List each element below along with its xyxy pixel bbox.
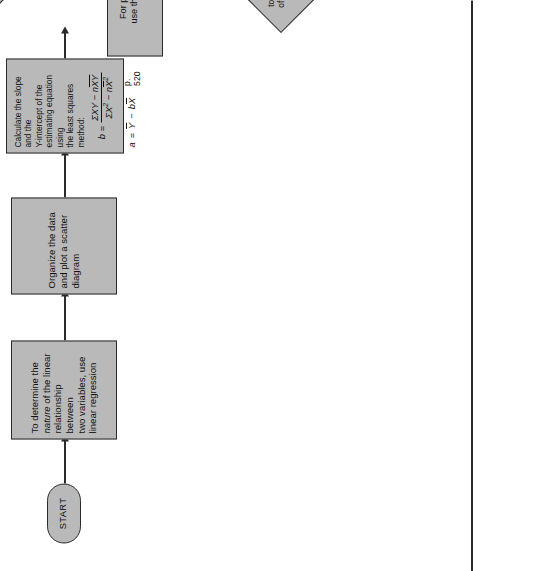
connector-start-to-determine [64,439,66,483]
node-decision-predict-values-label: Do you wantto predict valuesof the depen… [219,0,343,38]
node-determine-nature-label: To determine thenature of the linearrela… [29,341,99,438]
node-start-label: START [58,497,69,529]
formula-b: b=ΣXY − nXYΣX2 − nX2 [90,64,116,147]
connector-organize-to-calculate [64,153,66,197]
connector-determine-to-organize [64,294,66,340]
node-determine-nature[interactable]: To determine thenature of the linearrela… [11,340,117,439]
node-organize-data[interactable]: Organize the dataand plot a scatterdiagr… [11,197,117,294]
node-decision-predict-values[interactable]: Do you wantto predict valuesof the depen… [241,0,321,16]
node-calculate-slope-label: Calculate the slope and theY-intercept o… [7,59,143,152]
flowchart-canvas: Yes No STARTTo determine thenature of th… [0,0,546,571]
node-calculate-slope[interactable]: Calculate the slope and theY-intercept o… [6,58,124,153]
formula-a: a=Y−bXp. 520 [122,64,143,147]
arrowhead-calculate-to-decision [61,26,69,33]
node-decision-prediction-interval-label: Do you want anapproximate predictioninte… [0,0,33,44]
node-start[interactable]: START [47,483,81,543]
node-decision-prediction-interval[interactable]: Do you want anapproximate predictioninte… [0,0,9,20]
flowchart-stage: Yes No STARTTo determine thenature of th… [0,0,546,571]
node-point-predictions[interactable]: For point predictions,use the regression… [107,0,163,56]
connector-no-merge-rail [471,0,473,571]
node-point-predictions-label: For point predictions,use the regression… [118,0,151,55]
node-organize-data-label: Organize the dataand plot a scatterdiagr… [46,198,81,293]
